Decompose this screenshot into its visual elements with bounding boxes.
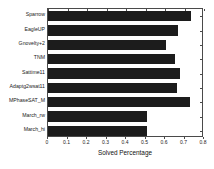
x-axis-tick-label: 0.2 [83, 140, 90, 145]
y-axis-tick-label: Adaptg2wsat11 [0, 84, 45, 89]
y-axis-tick-label: Gnovelty+2 [0, 41, 45, 46]
y-axis-category-labels: SparrowEagleUPGnovelty+2TNMSattime11Adap… [0, 8, 214, 137]
y-axis-tick-label: MPhaseSAT_M [0, 99, 45, 104]
y-axis-tick-label: March_hi [0, 127, 45, 132]
x-axis-tick-label: 0 [46, 140, 49, 145]
x-axis-tick-label: 0.7 [180, 140, 187, 145]
y-axis-tick-label: March_rw [0, 113, 45, 118]
x-axis-tick-label: 0.6 [161, 140, 168, 145]
y-axis-tick-label: TNM [0, 56, 45, 61]
x-axis-tick-label: 0.5 [141, 140, 148, 145]
x-axis-tick-label: 0.4 [122, 140, 129, 145]
x-axis-title: Solved Percentage [47, 150, 203, 156]
x-axis-tick-label: 0.3 [102, 140, 109, 145]
x-axis-tick-label: 0.1 [63, 140, 70, 145]
x-axis-tick-label: 0.8 [200, 140, 207, 145]
y-axis-tick-label: Sattime11 [0, 70, 45, 75]
y-axis-tick-label: Sparrow [0, 13, 45, 18]
y-axis-tick-label: EagleUP [0, 27, 45, 32]
x-axis-ticks: 00.10.20.30.40.50.60.70.8 [47, 137, 203, 149]
bar-chart: SparrowEagleUPGnovelty+2TNMSattime11Adap… [0, 0, 214, 169]
